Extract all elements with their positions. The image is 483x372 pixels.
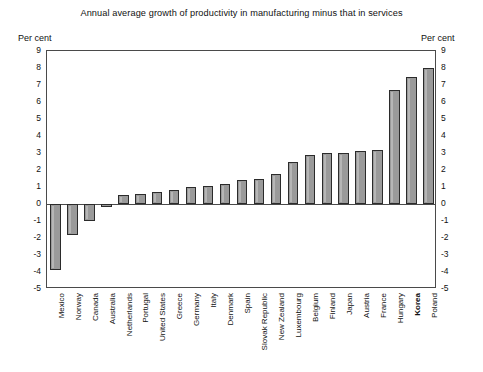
x-category-label-france: France	[380, 293, 388, 318]
y-tick-label-left-12: -3	[0, 250, 41, 259]
y-tick-label-left-14: -5	[0, 284, 41, 293]
x-category-label-austria: Austria	[363, 293, 371, 318]
x-category-label-hungary: Hungary	[397, 293, 405, 323]
plot-area	[46, 50, 436, 288]
y-tick-label-right-10: -1	[441, 216, 449, 225]
y-tick-label-left-13: -4	[0, 267, 41, 276]
x-category-label-korea: Korea	[414, 293, 422, 316]
y-tick-label-left-5: 4	[0, 131, 41, 140]
y-tick-label-left-1: 8	[0, 63, 41, 72]
bar-norway	[67, 204, 78, 235]
x-category-label-denmark: Denmark	[227, 293, 235, 325]
bar-slovak-republic	[254, 179, 265, 204]
bar-luxembourg	[288, 162, 299, 204]
y-tick-label-right-13: -4	[441, 267, 449, 276]
x-category-label-mexico: Mexico	[58, 293, 66, 318]
y-axis-label-right: Per cent	[421, 33, 455, 43]
bar-portugal	[135, 194, 146, 204]
y-tick-label-left-9: 0	[0, 199, 41, 208]
y-tick-label-left-6: 3	[0, 148, 41, 157]
y-tick-label-left-2: 7	[0, 80, 41, 89]
bar-poland	[423, 68, 434, 204]
x-category-label-greece: Greece	[176, 293, 184, 319]
y-tick-label-left-10: -1	[0, 216, 41, 225]
x-category-label-norway: Norway	[75, 293, 83, 320]
x-category-label-new-zealand: New Zealand	[278, 293, 286, 340]
bar-netherlands	[118, 195, 129, 204]
bars-container	[47, 51, 435, 287]
x-category-label-germany: Germany	[193, 293, 201, 326]
y-tick-label-right-8: 1	[441, 182, 446, 191]
y-tick-label-left-7: 2	[0, 165, 41, 174]
bar-canada	[84, 204, 95, 221]
bar-italy	[203, 186, 214, 204]
y-tick-label-left-4: 5	[0, 114, 41, 123]
y-tick-label-right-2: 7	[441, 80, 446, 89]
y-tick-label-right-7: 2	[441, 165, 446, 174]
bar-austria	[355, 151, 366, 204]
chart-figure: Annual average growth of productivity in…	[0, 0, 483, 372]
x-category-label-finland: Finland	[329, 293, 337, 319]
y-tick-label-right-3: 6	[441, 97, 446, 106]
bar-korea	[406, 77, 417, 205]
y-tick-label-right-12: -3	[441, 250, 449, 259]
bar-germany	[186, 187, 197, 204]
x-category-label-poland: Poland	[431, 293, 439, 318]
bar-greece	[169, 190, 180, 204]
chart-title: Annual average growth of productivity in…	[0, 8, 483, 18]
bar-denmark	[220, 184, 231, 204]
y-tick-label-right-9: 0	[441, 199, 446, 208]
y-tick-label-left-3: 6	[0, 97, 41, 106]
y-tick-label-right-0: 9	[441, 46, 446, 55]
x-category-label-italy: Italy	[210, 293, 218, 308]
x-category-label-netherlands: Netherlands	[126, 293, 134, 336]
x-category-label-belgium: Belgium	[312, 293, 320, 322]
y-tick-label-right-6: 3	[441, 148, 446, 157]
bar-finland	[322, 153, 333, 204]
x-category-label-spain: Spain	[244, 293, 252, 313]
x-category-label-japan: Japan	[346, 293, 354, 315]
bar-france	[372, 150, 383, 204]
x-category-label-luxembourg: Luxembourg	[295, 293, 303, 337]
x-category-label-canada: Canada	[92, 293, 100, 321]
y-tick-label-right-1: 8	[441, 63, 446, 72]
y-tick-label-left-0: 9	[0, 46, 41, 55]
y-tick-label-right-14: -5	[441, 284, 449, 293]
bar-japan	[338, 153, 349, 204]
y-axis-label-left: Per cent	[18, 33, 52, 43]
y-tick-label-left-8: 1	[0, 182, 41, 191]
x-category-label-slovak-republic: Slovak Republic	[261, 293, 269, 350]
bar-belgium	[305, 155, 316, 204]
y-tick-label-left-11: -2	[0, 233, 41, 242]
x-category-label-portugal: Portugal	[142, 293, 150, 323]
y-tick-label-right-5: 4	[441, 131, 446, 140]
y-tick-label-right-4: 5	[441, 114, 446, 123]
x-category-label-united-states: United States	[159, 293, 167, 341]
bar-new-zealand	[271, 174, 282, 204]
bar-australia	[101, 204, 112, 207]
bar-hungary	[389, 90, 400, 204]
bar-united-states	[152, 192, 163, 204]
x-category-label-australia: Australia	[109, 293, 117, 324]
bar-spain	[237, 180, 248, 204]
bar-mexico	[50, 204, 61, 270]
y-tick-label-right-11: -2	[441, 233, 449, 242]
